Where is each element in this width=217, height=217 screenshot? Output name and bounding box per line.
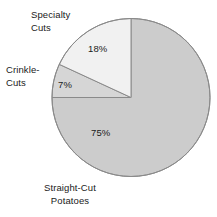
pie-value-specialty-cuts: 18% [88, 43, 107, 54]
pie-label-crinkle-cuts-line1: Crinkle- [6, 64, 40, 77]
pie-label-specialty-cuts-line2: Cuts [31, 22, 70, 35]
pie-chart: Specialty Cuts Crinkle- Cuts Straight-Cu… [0, 0, 217, 217]
pie-label-specialty-cuts-line1: Specialty [31, 9, 70, 22]
pie-value-straight-cut-potatoes: 75% [91, 127, 110, 138]
pie-label-specialty-cuts: Specialty Cuts [31, 9, 70, 34]
pie-label-straight-cut-potatoes-line1: Straight-Cut [22, 182, 118, 195]
pie-label-crinkle-cuts: Crinkle- Cuts [6, 64, 40, 89]
pie-label-straight-cut-potatoes-line2: Potatoes [22, 195, 118, 208]
pie-value-crinkle-cuts: 7% [58, 79, 72, 90]
pie-label-straight-cut-potatoes: Straight-Cut Potatoes [22, 182, 118, 207]
pie-label-crinkle-cuts-line2: Cuts [6, 77, 40, 90]
